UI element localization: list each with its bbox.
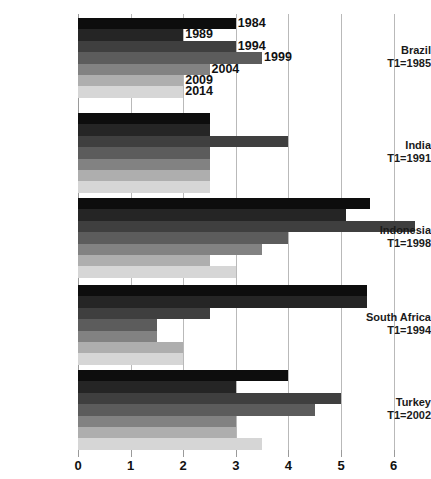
bar-2014-india[interactable] — [78, 181, 210, 192]
category-baseline: T1=1991 — [355, 152, 431, 165]
bar-row — [78, 285, 431, 296]
bar-1999-india[interactable] — [78, 147, 210, 158]
bar-row — [78, 255, 431, 266]
bar-1994-south-africa[interactable] — [78, 308, 210, 319]
bar-1989-south-africa[interactable] — [78, 296, 367, 307]
bar-row — [78, 170, 431, 181]
bar-2014-indonesia[interactable] — [78, 266, 236, 277]
x-tick-6 — [394, 450, 395, 457]
year-annotation-1989: 1989 — [185, 28, 213, 40]
bar-row — [78, 181, 431, 192]
category-label-indonesia: IndonesiaT1=1998 — [355, 224, 431, 250]
bar-2009-turkey[interactable] — [78, 427, 236, 438]
x-tick-label-3: 3 — [232, 458, 239, 473]
bar-row — [78, 75, 431, 86]
category-baseline: T1=2002 — [355, 409, 431, 422]
bar-1994-india[interactable] — [78, 136, 288, 147]
bar-2009-india[interactable] — [78, 170, 210, 181]
x-tick-label-0: 0 — [74, 458, 81, 473]
bar-row — [78, 427, 431, 438]
x-tick-2 — [183, 450, 184, 457]
category-baseline: T1=1998 — [355, 237, 431, 250]
bar-1989-brazil[interactable] — [78, 29, 183, 40]
bar-1984-turkey[interactable] — [78, 370, 288, 381]
bar-2009-brazil[interactable] — [78, 75, 183, 86]
x-tick-label-4: 4 — [285, 458, 292, 473]
x-tick-label-1: 1 — [127, 458, 134, 473]
category-name: South Africa — [355, 311, 431, 324]
category-label-south-africa: South AfricaT1=1994 — [355, 311, 431, 337]
bar-row — [78, 438, 431, 449]
bar-row — [78, 342, 431, 353]
bar-row — [78, 86, 431, 97]
bar-row — [78, 353, 431, 364]
x-axis: 0123456 — [78, 450, 431, 479]
bar-1989-india[interactable] — [78, 124, 210, 135]
year-annotation-2014: 2014 — [185, 85, 213, 97]
category-name: India — [355, 139, 431, 152]
category-name: Indonesia — [355, 224, 431, 237]
x-tick-label-5: 5 — [337, 458, 344, 473]
bar-2014-brazil[interactable] — [78, 86, 183, 97]
category-label-turkey: TurkeyT1=2002 — [355, 396, 431, 422]
x-tick-4 — [288, 450, 289, 457]
bar-1984-south-africa[interactable] — [78, 285, 367, 296]
category-name: Brazil — [355, 44, 431, 57]
bar-1994-brazil[interactable] — [78, 41, 236, 52]
category-label-brazil: BrazilT1=1985 — [355, 44, 431, 70]
x-tick-0 — [78, 450, 79, 457]
year-annotation-2004: 2004 — [212, 63, 240, 75]
bar-2004-south-africa[interactable] — [78, 331, 157, 342]
bar-row — [78, 266, 431, 277]
category-name: Turkey — [355, 396, 431, 409]
year-annotation-1999: 1999 — [264, 51, 292, 63]
bar-1984-indonesia[interactable] — [78, 198, 370, 209]
x-tick-5 — [341, 450, 342, 457]
bar-2014-turkey[interactable] — [78, 438, 262, 449]
bar-1999-south-africa[interactable] — [78, 319, 157, 330]
bar-2009-indonesia[interactable] — [78, 255, 210, 266]
x-tick-label-6: 6 — [390, 458, 397, 473]
bar-row — [78, 124, 431, 135]
bar-row — [78, 198, 431, 209]
bar-1989-indonesia[interactable] — [78, 209, 346, 220]
bar-1989-turkey[interactable] — [78, 381, 236, 392]
grouped-bar-chart: 1984198919941999200420092014 BrazilT1=19… — [0, 0, 431, 479]
x-tick-3 — [236, 450, 237, 457]
category-label-india: IndiaT1=1991 — [355, 139, 431, 165]
x-tick-label-2: 2 — [180, 458, 187, 473]
bar-2004-india[interactable] — [78, 159, 210, 170]
bar-2014-south-africa[interactable] — [78, 353, 183, 364]
year-annotation-1984: 1984 — [238, 17, 266, 29]
year-annotation-1994: 1994 — [238, 40, 266, 52]
bar-row — [78, 296, 431, 307]
bar-row — [78, 381, 431, 392]
bar-1999-turkey[interactable] — [78, 404, 315, 415]
bar-2004-turkey[interactable] — [78, 416, 236, 427]
category-baseline: T1=1985 — [355, 57, 431, 70]
x-tick-1 — [131, 450, 132, 457]
bar-1999-indonesia[interactable] — [78, 232, 288, 243]
bar-row — [78, 113, 431, 124]
bar-2009-south-africa[interactable] — [78, 342, 183, 353]
bar-1994-turkey[interactable] — [78, 393, 341, 404]
bar-row — [78, 370, 431, 381]
bar-row — [78, 209, 431, 220]
category-baseline: T1=1994 — [355, 324, 431, 337]
bar-1984-india[interactable] — [78, 113, 210, 124]
bar-2004-indonesia[interactable] — [78, 244, 262, 255]
